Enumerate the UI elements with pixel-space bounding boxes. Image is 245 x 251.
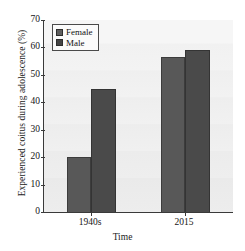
y-tick-mark-60 xyxy=(41,47,45,48)
legend-item-female: Female xyxy=(56,27,93,38)
x-tick-mark-1940s xyxy=(91,212,92,216)
y-tick-mark-50 xyxy=(41,75,45,76)
y-tick-label-50: 50 xyxy=(20,70,40,80)
bar-chart-figure: Experienced coitus during adolescence (%… xyxy=(0,0,245,251)
legend-item-male: Male xyxy=(56,38,93,49)
bar-2015-female xyxy=(161,57,185,212)
legend-swatch-male-icon xyxy=(56,39,63,46)
x-tick-label-2015: 2015 xyxy=(175,217,194,227)
y-tick-label-10: 10 xyxy=(20,180,40,190)
bar-1940s-male xyxy=(91,89,116,212)
legend-swatch-female-icon xyxy=(56,29,63,36)
y-tick-label-40: 40 xyxy=(20,98,40,108)
y-tick-mark-30 xyxy=(41,130,45,131)
x-axis-title: Time xyxy=(0,232,245,242)
bar-2015-male xyxy=(185,50,210,212)
bar-1940s-female xyxy=(67,157,91,212)
legend-label-female: Female xyxy=(66,27,93,38)
y-tick-label-70: 70 xyxy=(20,15,40,25)
y-tick-mark-10 xyxy=(41,185,45,186)
legend-label-male: Male xyxy=(66,38,85,49)
y-tick-mark-0 xyxy=(41,212,45,213)
y-tick-label-20: 20 xyxy=(20,152,40,162)
y-tick-mark-40 xyxy=(41,102,45,103)
y-tick-mark-70 xyxy=(41,20,45,21)
y-tick-mark-20 xyxy=(41,157,45,158)
y-tick-label-30: 30 xyxy=(20,125,40,135)
y-tick-label-0: 0 xyxy=(20,207,40,217)
y-tick-label-60: 60 xyxy=(20,43,40,53)
legend: Female Male xyxy=(52,24,99,51)
x-tick-mark-2015 xyxy=(185,212,186,216)
x-tick-label-1940s: 1940s xyxy=(79,217,102,227)
